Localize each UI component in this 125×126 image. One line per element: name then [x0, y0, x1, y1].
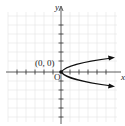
- graph: y x (0, 0) O: [0, 0, 125, 126]
- grid: [8, 12, 117, 122]
- axes: [6, 6, 121, 124]
- lower-arrow-icon: [108, 84, 115, 89]
- lower-branch: [61, 72, 112, 86]
- vertex-label: (0, 0): [35, 58, 55, 68]
- upper-branch: [61, 58, 112, 72]
- x-axis-label: x: [120, 72, 125, 82]
- origin-label: O: [54, 72, 61, 82]
- upper-arrow-icon: [108, 56, 115, 61]
- y-axis-label: y: [54, 2, 59, 12]
